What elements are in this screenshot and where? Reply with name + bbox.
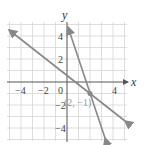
y-tick-label: 4	[58, 31, 63, 42]
y-axis-label: y	[61, 8, 68, 22]
y-tick-label: 2	[58, 54, 63, 65]
x-axis-label: x	[130, 75, 137, 89]
intersection-point	[88, 91, 93, 96]
x-tick-label: −4	[15, 85, 26, 96]
intersection-label: (2, −1)	[64, 97, 91, 109]
x-tick-label: 4	[112, 85, 117, 96]
x-tick-label: −2	[38, 85, 49, 96]
x-tick-label: 0	[58, 85, 63, 96]
y-tick-label: −4	[55, 123, 66, 134]
coordinate-graph: x y −4 −2 0 4 4 2 −2 −4 (2, −1)	[0, 0, 146, 145]
